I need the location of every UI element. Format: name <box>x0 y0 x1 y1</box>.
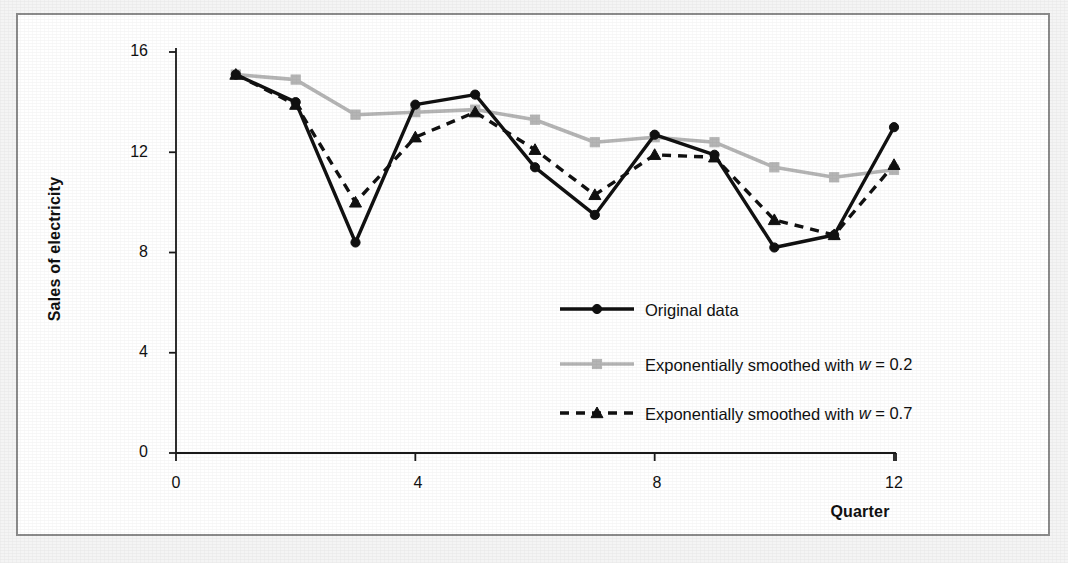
axes-group <box>169 48 896 461</box>
figure-container: Sales of electricity Quarter 16 12 8 4 0… <box>0 0 1068 563</box>
chart-plot-area: Sales of electricity Quarter 16 12 8 4 0… <box>0 0 1068 563</box>
legend-swatch-group <box>560 304 634 417</box>
chart-svg <box>0 0 1068 563</box>
series-group <box>230 69 900 253</box>
